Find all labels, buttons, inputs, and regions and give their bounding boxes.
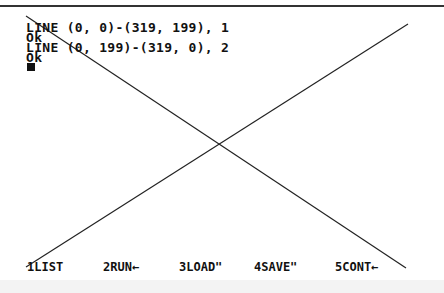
basic-screen[interactable]: LINE (0, 0)-(319, 199), 1 Ok LINE (0, 19… xyxy=(0,0,444,293)
fkey-load[interactable]: 3LOAD" xyxy=(179,260,222,274)
command-line-1: LINE (0, 0)-(319, 199), 1 xyxy=(26,23,229,33)
ok-response-2: Ok xyxy=(26,53,42,63)
bottom-border xyxy=(0,280,444,293)
fkey-save[interactable]: 4SAVE" xyxy=(254,260,297,274)
fkey-list[interactable]: 1LIST xyxy=(27,260,63,274)
text-cursor xyxy=(27,63,35,71)
fkey-cont[interactable]: 5CONT← xyxy=(335,260,378,274)
fkey-run[interactable]: 2RUN← xyxy=(103,260,139,274)
command-line-2: LINE (0, 199)-(319, 0), 2 xyxy=(26,43,229,53)
